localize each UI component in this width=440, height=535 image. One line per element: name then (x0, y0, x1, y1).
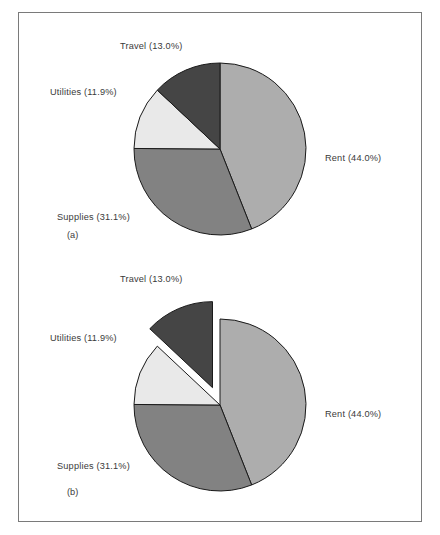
pie-chart-panel-a: Travel (13.0%) Utilities (11.9%) Supplie… (19, 13, 421, 268)
pie-label-supplies-a: Supplies (31.1%) (57, 212, 130, 222)
pie-label-utilities-b: Utilities (11.9%) (50, 333, 117, 343)
pie-chart-a-svg (19, 13, 421, 268)
pie-chart-panel-b: Travel (13.0%) Utilities (11.9%) Supplie… (19, 256, 421, 511)
pie-label-utilities-a: Utilities (11.9%) (50, 87, 117, 97)
panel-caption-b: (b) (67, 487, 78, 497)
pie-label-rent-a: Rent (44.0%) (325, 153, 381, 163)
pie-label-travel-b: Travel (13.0%) (120, 274, 182, 284)
pie-label-travel-a: Travel (13.0%) (120, 41, 182, 51)
panel-caption-a: (a) (67, 230, 78, 240)
figure-frame: Travel (13.0%) Utilities (11.9%) Supplie… (18, 12, 422, 522)
pie-chart-b-svg (19, 256, 421, 521)
pie-label-rent-b: Rent (44.0%) (325, 409, 381, 419)
pie-label-supplies-b: Supplies (31.1%) (57, 461, 130, 471)
